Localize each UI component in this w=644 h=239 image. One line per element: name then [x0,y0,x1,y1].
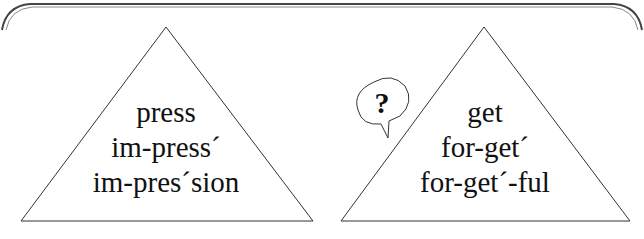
left-word-base: press [66,95,266,129]
left-word-derived: im-press´ [66,130,266,164]
left-word-noun: im-pres´sion [56,165,276,199]
right-word-adjective: for-get´-ful [375,165,595,199]
right-word-derived: for-get´ [385,130,585,164]
frame-border [2,4,642,30]
right-word-base: get [385,95,585,129]
